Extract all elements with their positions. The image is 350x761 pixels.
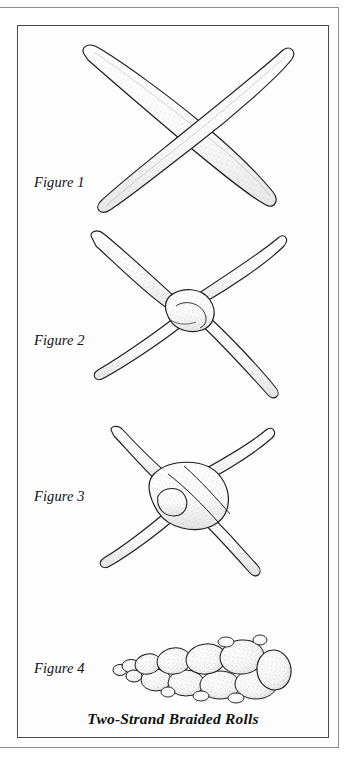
figure-2-block: Figure 2: [18, 222, 328, 412]
figure-2-arm-lower-left: [94, 317, 184, 380]
illustration-page: Figure 1: [0, 0, 350, 761]
figure-3-block: Figure 3: [18, 418, 328, 598]
figure-2-arm-upper-left: [91, 231, 179, 311]
figure-3-art: [88, 424, 288, 584]
figure-1-rope-a: [83, 45, 276, 206]
figure-1-block: Figure 1: [18, 26, 328, 231]
figure-4-art: [108, 628, 298, 708]
figure-4-block: Figure 4: [18, 604, 328, 704]
figure-4-label: Figure 4: [34, 660, 85, 677]
figure-2-arm-upper-right: [192, 236, 286, 306]
figure-4-braided-loaf: [113, 635, 294, 703]
figure-1-art: [64, 32, 304, 232]
figure-2-art: [78, 226, 298, 411]
illustration-frame: Figure 1: [17, 25, 329, 738]
plate-caption: Two-Strand Braided Rolls: [18, 710, 328, 728]
figure-3-label: Figure 3: [34, 488, 85, 505]
